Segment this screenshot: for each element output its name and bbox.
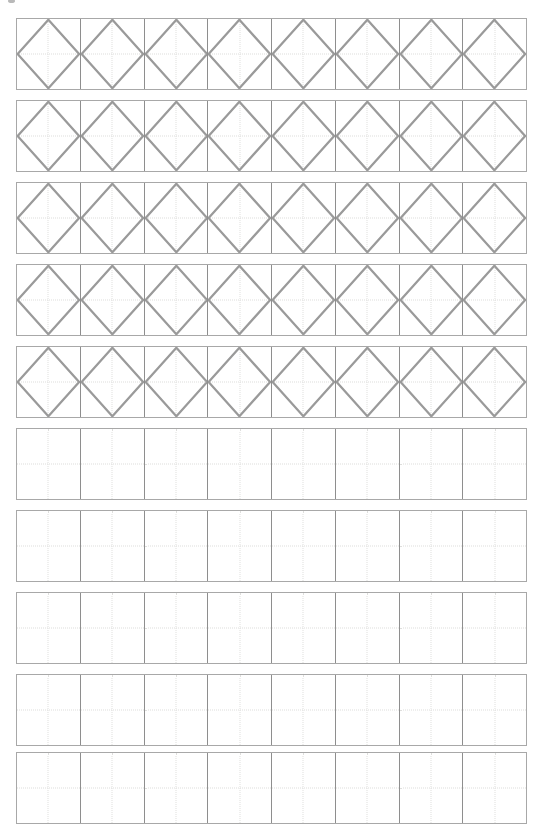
tracing-cell[interactable]: [272, 593, 336, 663]
tracing-cell[interactable]: [17, 19, 81, 89]
diamond-shape-icon: [336, 19, 399, 89]
tracing-cell[interactable]: [336, 347, 400, 417]
tracing-cell[interactable]: [463, 265, 526, 335]
tracing-cell[interactable]: [145, 347, 209, 417]
tracing-cell[interactable]: [400, 753, 464, 823]
tracing-cell[interactable]: [17, 593, 81, 663]
tracing-cell[interactable]: [336, 429, 400, 499]
tracing-cell[interactable]: [81, 753, 145, 823]
tracing-cell[interactable]: [463, 101, 526, 171]
worksheet-row-3: [16, 182, 527, 254]
tracing-cell[interactable]: [81, 101, 145, 171]
tracing-cell[interactable]: [463, 429, 526, 499]
tracing-cell[interactable]: [17, 753, 81, 823]
tracing-cell[interactable]: [400, 265, 464, 335]
worksheet-row-1: [16, 18, 527, 90]
tracing-cell[interactable]: [208, 593, 272, 663]
horizontal-guide-line: [81, 546, 144, 547]
tracing-cell[interactable]: [272, 347, 336, 417]
tracing-cell[interactable]: [400, 675, 464, 745]
tracing-cell[interactable]: [400, 183, 464, 253]
diamond-shape-icon: [208, 101, 271, 171]
tracing-cell[interactable]: [208, 675, 272, 745]
tracing-cell[interactable]: [17, 429, 81, 499]
tracing-cell[interactable]: [272, 511, 336, 581]
horizontal-guide-line: [463, 710, 526, 711]
tracing-cell[interactable]: [463, 675, 526, 745]
tracing-cell[interactable]: [272, 183, 336, 253]
horizontal-guide-line: [81, 788, 144, 789]
tracing-cell[interactable]: [463, 19, 526, 89]
tracing-cell[interactable]: [463, 511, 526, 581]
tracing-cell[interactable]: [272, 265, 336, 335]
tracing-cell[interactable]: [272, 101, 336, 171]
tracing-cell[interactable]: [336, 753, 400, 823]
tracing-cell[interactable]: [145, 675, 209, 745]
tracing-cell[interactable]: [208, 753, 272, 823]
horizontal-guide-line: [463, 546, 526, 547]
diamond-shape-icon: [81, 183, 144, 253]
tracing-cell[interactable]: [145, 511, 209, 581]
tracing-cell[interactable]: [336, 675, 400, 745]
tracing-cell[interactable]: [400, 347, 464, 417]
horizontal-guide-line: [208, 788, 271, 789]
tracing-cell[interactable]: [208, 183, 272, 253]
tracing-cell[interactable]: [208, 429, 272, 499]
tracing-cell[interactable]: [463, 593, 526, 663]
horizontal-guide-line: [145, 710, 208, 711]
horizontal-guide-line: [400, 710, 463, 711]
tracing-cell[interactable]: [17, 101, 81, 171]
tracing-cell[interactable]: [336, 101, 400, 171]
worksheet-row-2: [16, 100, 527, 172]
tracing-cell[interactable]: [400, 101, 464, 171]
tracing-cell[interactable]: [81, 19, 145, 89]
tracing-cell[interactable]: [336, 511, 400, 581]
tracing-cell[interactable]: [145, 753, 209, 823]
tracing-cell[interactable]: [145, 183, 209, 253]
tracing-cell[interactable]: [145, 265, 209, 335]
tracing-cell[interactable]: [17, 265, 81, 335]
horizontal-guide-line: [272, 788, 335, 789]
tracing-cell[interactable]: [145, 101, 209, 171]
diamond-shape-icon: [336, 265, 399, 335]
tracing-cell[interactable]: [336, 183, 400, 253]
tracing-cell[interactable]: [400, 593, 464, 663]
diamond-shape-icon: [272, 265, 335, 335]
tracing-cell[interactable]: [81, 347, 145, 417]
tracing-cell[interactable]: [17, 347, 81, 417]
tracing-cell[interactable]: [208, 347, 272, 417]
tracing-cell[interactable]: [208, 265, 272, 335]
tracing-cell[interactable]: [208, 19, 272, 89]
tracing-cell[interactable]: [145, 593, 209, 663]
tracing-cell[interactable]: [400, 511, 464, 581]
tracing-cell[interactable]: [272, 429, 336, 499]
tracing-cell[interactable]: [208, 101, 272, 171]
tracing-cell[interactable]: [208, 511, 272, 581]
tracing-cell[interactable]: [17, 511, 81, 581]
diamond-shape-icon: [145, 265, 208, 335]
tracing-cell[interactable]: [336, 265, 400, 335]
tracing-cell[interactable]: [17, 183, 81, 253]
tracing-cell[interactable]: [400, 19, 464, 89]
tracing-cell[interactable]: [81, 675, 145, 745]
tracing-cell[interactable]: [81, 511, 145, 581]
tracing-cell[interactable]: [272, 675, 336, 745]
tracing-cell[interactable]: [400, 429, 464, 499]
tracing-cell[interactable]: [81, 265, 145, 335]
tracing-cell[interactable]: [272, 19, 336, 89]
tracing-cell[interactable]: [81, 593, 145, 663]
tracing-cell[interactable]: [145, 19, 209, 89]
tracing-cell[interactable]: [145, 429, 209, 499]
diamond-shape-icon: [463, 183, 526, 253]
tracing-cell[interactable]: [272, 753, 336, 823]
tracing-cell[interactable]: [17, 675, 81, 745]
tracing-cell[interactable]: [336, 593, 400, 663]
tracing-cell[interactable]: [81, 183, 145, 253]
tracing-cell[interactable]: [81, 429, 145, 499]
tracing-cell[interactable]: [463, 753, 526, 823]
horizontal-guide-line: [81, 628, 144, 629]
tracing-cell[interactable]: [463, 183, 526, 253]
tracing-cell[interactable]: [463, 347, 526, 417]
diamond-shape-icon: [208, 265, 271, 335]
tracing-cell[interactable]: [336, 19, 400, 89]
